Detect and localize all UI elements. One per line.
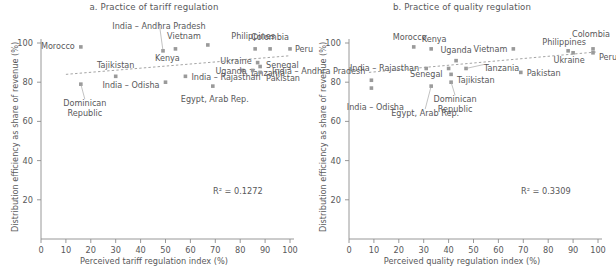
figure-scatter-pair: a. Practice of tariff regulation Distrib…: [0, 0, 616, 275]
x-tick-label: 100: [590, 245, 606, 255]
x-tick-label: 0: [346, 245, 351, 255]
x-tick-label: 10: [369, 245, 379, 255]
data-point: [591, 47, 595, 51]
x-tick-label: 50: [468, 245, 478, 255]
data-point: [449, 73, 453, 77]
point-label: Tanzania: [483, 63, 519, 73]
data-point: [79, 45, 83, 49]
x-tick-label: 90: [260, 245, 270, 255]
data-point: [206, 43, 210, 47]
data-point: [184, 75, 188, 79]
data-point: [256, 61, 260, 65]
y-tick-label: 60: [331, 116, 341, 126]
data-point: [512, 47, 516, 51]
point-label: Kenya: [155, 53, 180, 63]
data-point: [447, 67, 451, 71]
point-label: Colombia: [251, 32, 289, 42]
data-point: [370, 78, 374, 82]
panel-b-y-axis-label: Distribution efficiency as share of reve…: [318, 42, 328, 232]
point-label: Uganda: [440, 45, 471, 55]
data-point: [258, 71, 262, 75]
y-tick-label: 80: [331, 77, 341, 87]
data-point: [519, 71, 523, 75]
point-label: Ukraine: [553, 55, 584, 65]
point-label: India – Rajasthan: [350, 63, 419, 73]
data-point: [258, 65, 262, 69]
x-tick-label: 40: [443, 245, 453, 255]
point-label: Peru: [599, 52, 616, 62]
data-point: [114, 75, 118, 79]
point-label: Senegal: [410, 69, 443, 79]
y-tick-label: 80: [23, 77, 33, 87]
y-tick-label: 40: [23, 156, 33, 166]
panel-tariff-regulation: a. Practice of tariff regulation Distrib…: [0, 0, 308, 275]
x-tick-label: 50: [160, 245, 170, 255]
y-tick-label: 40: [331, 156, 341, 166]
y-tick-label: 20: [23, 195, 33, 205]
data-point: [174, 47, 178, 51]
x-tick-label: 80: [235, 245, 245, 255]
x-tick-label: 40: [135, 245, 145, 255]
point-label: DominicanRepublic: [433, 94, 476, 114]
label-leader-line: [466, 64, 484, 68]
x-tick-label: 20: [394, 245, 404, 255]
point-label: Ukraine: [220, 56, 251, 66]
data-point: [370, 86, 374, 90]
x-tick-label: 30: [418, 245, 428, 255]
panel-b-r-squared: R² = 0.3309: [521, 186, 571, 196]
y-tick-label: 20: [331, 195, 341, 205]
data-point: [268, 47, 272, 51]
x-tick-label: 0: [38, 245, 43, 255]
label-leader-line: [81, 84, 85, 99]
data-point: [288, 47, 292, 51]
y-tick-label: 100: [17, 38, 33, 48]
point-label: Tajikistan: [96, 60, 134, 70]
x-tick-label: 10: [61, 245, 71, 255]
label-leader-line: [425, 86, 431, 109]
x-tick-label: 100: [282, 245, 298, 255]
point-label: Vietnam: [167, 31, 201, 41]
data-point: [566, 49, 570, 53]
point-label: Colombia: [572, 29, 610, 39]
x-tick-label: 70: [518, 245, 528, 255]
data-point: [164, 80, 168, 84]
data-point: [429, 47, 433, 51]
x-tick-label: 20: [86, 245, 96, 255]
y-tick-label: 60: [23, 116, 33, 126]
point-label: Uganda: [215, 66, 246, 76]
x-tick-label: 70: [210, 245, 220, 255]
panel-a-plot-area: 010203040506070809010020406080100Morocco…: [0, 0, 308, 275]
data-point: [211, 84, 215, 88]
x-tick-label: 60: [185, 245, 195, 255]
point-label: Kenya: [422, 34, 447, 44]
point-label: Morocco: [41, 41, 75, 51]
x-tick-label: 80: [543, 245, 553, 255]
data-point: [412, 45, 416, 49]
x-tick-label: 60: [493, 245, 503, 255]
data-point: [251, 69, 255, 73]
point-label: Egypt, Arab Rep.: [181, 94, 249, 104]
point-label: Pakistan: [527, 68, 561, 78]
point-label: India – Odisha: [102, 80, 159, 90]
point-label: Vietnam: [474, 44, 508, 54]
data-point: [454, 59, 458, 63]
data-point: [253, 47, 257, 51]
panel-b-plot-area: 010203040506070809010020406080100India –…: [308, 0, 616, 275]
point-label: DominicanRepublic: [63, 98, 106, 118]
x-tick-label: 90: [568, 245, 578, 255]
x-tick-label: 30: [110, 245, 120, 255]
point-label: Tajikistan: [456, 75, 494, 85]
panel-quality-regulation: b. Practice of quality regulation Percei…: [308, 0, 616, 275]
data-point: [591, 51, 595, 55]
point-label: India – Andhra Pradesh: [112, 21, 205, 31]
